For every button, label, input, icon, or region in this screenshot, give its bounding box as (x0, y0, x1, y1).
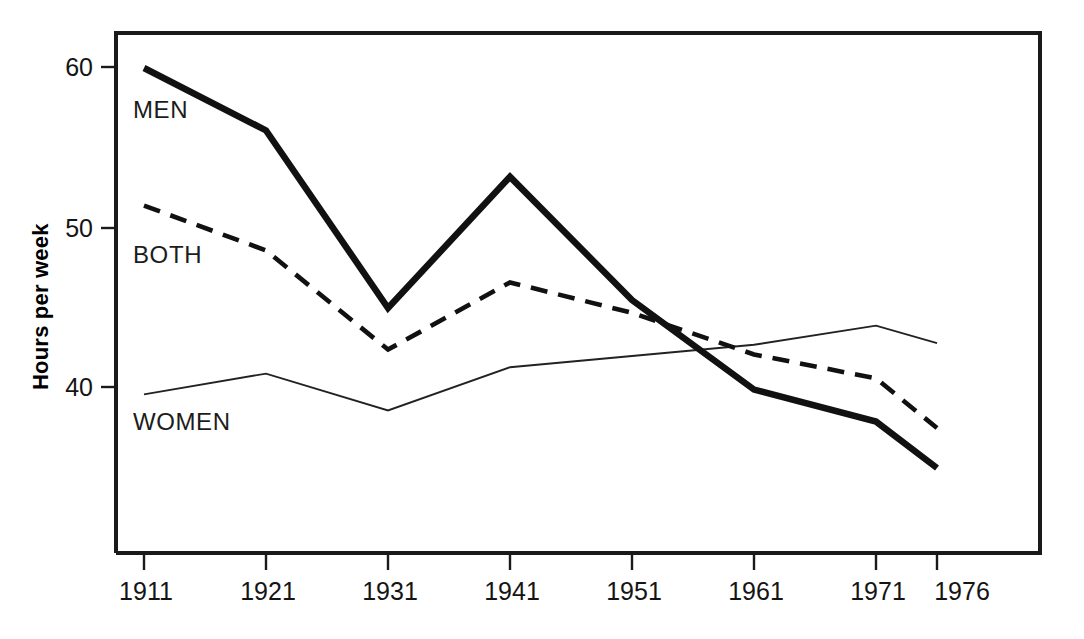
line-chart: 60 50 40 Hours per week 1911 1921 1931 1… (0, 0, 1084, 639)
x-tick-label-1971: 1971 (850, 577, 906, 605)
x-tick-label-1976: 1976 (934, 577, 990, 605)
x-tick-label-1941: 1941 (484, 577, 540, 605)
x-tick-label-1951: 1951 (606, 577, 662, 605)
x-tick-label-1921: 1921 (240, 577, 296, 605)
series-line-women (144, 326, 937, 411)
series-line-men (144, 68, 937, 468)
series-line-both (144, 206, 937, 428)
series-label-men: MEN (133, 96, 188, 123)
x-axis-ticks (144, 553, 937, 570)
x-tick-label-1931: 1931 (362, 577, 418, 605)
series-label-both: BOTH (133, 241, 202, 268)
y-axis-title: Hours per week (28, 223, 53, 390)
x-tick-label-1961: 1961 (728, 577, 784, 605)
y-axis-ticks (101, 67, 116, 387)
series-label-women: WOMEN (133, 408, 231, 435)
plot-frame (116, 33, 1040, 553)
x-tick-label-1911: 1911 (119, 577, 173, 605)
chart-container: 60 50 40 Hours per week 1911 1921 1931 1… (0, 0, 1084, 639)
y-tick-label-40: 40 (65, 373, 93, 401)
y-tick-label-50: 50 (65, 214, 93, 242)
y-tick-label-60: 60 (65, 53, 93, 81)
